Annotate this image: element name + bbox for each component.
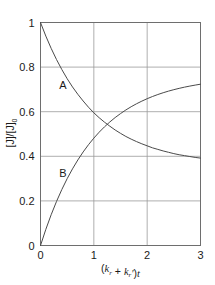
curve-annotation-b: B [59,167,66,179]
y-tick-label: 0 [28,240,34,252]
chart-figure: 0123 00.20.40.60.81 AB (kr + kr′)t [J]/[… [0,0,215,285]
curve-annotations: AB [59,79,67,179]
x-axis-title: (kr + kr′)t [101,262,141,279]
y-tick-label: 0.8 [19,61,34,73]
y-tick-label: 0.4 [19,150,34,162]
x-tick-label: 1 [91,249,97,261]
curve-annotation-a: A [59,79,67,91]
y-axis-title: [J]/[J]0 [4,118,18,147]
grid-lines [41,23,201,246]
x-tick-label: 3 [197,249,203,261]
approach-to-equilibrium-chart: 0123 00.20.40.60.81 AB (kr + kr′)t [J]/[… [0,0,215,285]
y-axis-tick-labels: 00.20.40.60.81 [19,17,34,252]
curve-lines [41,23,201,246]
x-axis-tick-labels: 0123 [37,249,203,261]
curve-b [41,84,201,245]
y-tick-label: 0.2 [19,195,34,207]
y-axis-title-text: [J]/[J]0 [4,118,18,147]
y-tick-label: 0.6 [19,106,34,118]
x-axis-title-text: (kr + kr′)t [101,262,141,279]
x-tick-label: 2 [144,249,150,261]
y-tick-label: 1 [28,17,34,29]
x-tick-label: 0 [37,249,43,261]
plot-area-border [41,23,201,246]
plot-frame [41,23,201,246]
